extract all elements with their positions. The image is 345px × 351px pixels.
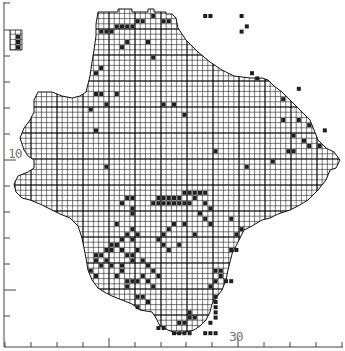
record-square <box>208 206 212 210</box>
record-square <box>245 165 249 169</box>
record-square <box>214 316 218 320</box>
record-square <box>156 201 160 205</box>
record-square <box>130 258 134 262</box>
record-square <box>219 274 223 278</box>
record-square <box>104 258 108 262</box>
record-square <box>162 232 166 236</box>
record-square <box>89 108 93 112</box>
record-square <box>297 87 301 91</box>
record-square <box>177 321 181 325</box>
record-square <box>120 264 124 268</box>
record-square <box>172 102 176 106</box>
record-square <box>172 222 176 226</box>
record-square <box>130 227 134 231</box>
record-square <box>229 217 233 221</box>
record-square <box>255 76 259 80</box>
record-square <box>203 14 207 18</box>
record-square <box>104 30 108 34</box>
record-square <box>193 191 197 195</box>
record-square <box>94 128 98 132</box>
record-square <box>99 264 103 268</box>
record-square <box>177 243 181 247</box>
x-axis-label-30: 30 <box>229 330 243 343</box>
record-square <box>177 331 181 335</box>
record-square <box>141 274 145 278</box>
record-square <box>162 326 166 330</box>
record-square <box>120 238 124 242</box>
record-square <box>182 113 186 117</box>
record-square <box>214 310 218 314</box>
record-square <box>198 191 202 195</box>
record-square <box>229 279 233 283</box>
record-square <box>94 274 98 278</box>
record-square <box>162 19 166 23</box>
record-square <box>162 102 166 106</box>
record-square <box>172 331 176 335</box>
record-square <box>307 123 311 127</box>
record-square <box>120 269 124 273</box>
record-square <box>203 201 207 205</box>
record-square <box>136 19 140 23</box>
record-square <box>94 253 98 257</box>
record-square <box>167 201 171 205</box>
record-square <box>130 253 134 257</box>
record-square <box>120 45 124 49</box>
record-square <box>94 92 98 96</box>
record-square <box>125 232 129 236</box>
record-square <box>172 196 176 200</box>
record-square <box>146 264 150 268</box>
record-square <box>208 321 212 325</box>
y-axis-label-10: 10 <box>8 147 22 160</box>
record-square <box>292 149 296 153</box>
record-square <box>141 295 145 299</box>
record-square <box>188 191 192 195</box>
record-square <box>208 222 212 226</box>
record-square <box>281 118 285 122</box>
record-square <box>94 258 98 262</box>
record-square <box>188 316 192 320</box>
record-square <box>130 196 134 200</box>
record-square <box>214 279 218 283</box>
record-square <box>130 212 134 216</box>
record-square <box>214 305 218 309</box>
record-square <box>182 321 186 325</box>
record-square <box>208 331 212 335</box>
record-square <box>125 279 129 283</box>
record-square <box>208 284 212 288</box>
record-square <box>214 300 218 304</box>
record-square <box>120 24 124 28</box>
record-square <box>219 269 223 273</box>
record-square <box>177 196 181 200</box>
record-square <box>224 279 228 283</box>
record-square <box>167 196 171 200</box>
record-square <box>151 269 155 273</box>
record-square <box>188 201 192 205</box>
record-square <box>99 253 103 257</box>
record-square <box>240 14 244 18</box>
record-square <box>167 19 171 23</box>
record-square <box>110 30 114 34</box>
record-square <box>99 92 103 96</box>
record-square <box>115 24 119 28</box>
record-square <box>182 222 186 226</box>
record-square <box>162 243 166 247</box>
record-square <box>104 165 108 169</box>
record-square <box>110 264 114 268</box>
record-square <box>130 206 134 210</box>
record-square <box>203 191 207 195</box>
record-square <box>198 212 202 216</box>
record-square <box>323 128 327 132</box>
record-square <box>151 14 155 18</box>
record-square <box>167 248 171 252</box>
record-square <box>156 196 160 200</box>
record-square <box>104 102 108 106</box>
record-square <box>136 232 140 236</box>
record-square <box>151 201 155 205</box>
record-square <box>292 134 296 138</box>
record-square <box>214 295 218 299</box>
record-square <box>115 274 119 278</box>
record-square <box>182 201 186 205</box>
record-square <box>214 269 218 273</box>
record-square <box>318 144 322 148</box>
record-square <box>110 243 114 247</box>
